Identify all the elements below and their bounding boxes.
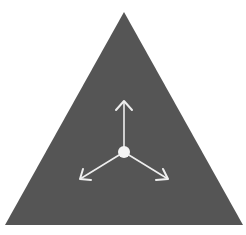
diagram-canvas bbox=[0, 0, 246, 235]
center-point-icon bbox=[118, 146, 130, 158]
triangle-force-diagram bbox=[0, 0, 246, 235]
